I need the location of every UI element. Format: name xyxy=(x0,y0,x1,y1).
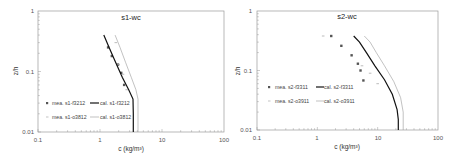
chart-title-right: s2-wc xyxy=(337,12,357,21)
x-axis-title-right: c (kg/m³) xyxy=(334,143,360,151)
legend-label: cal. s1-o3812 xyxy=(100,114,131,120)
y-axis-title-right: z/h xyxy=(234,66,241,75)
x-tick-100: 100 xyxy=(433,135,444,141)
x-tick-10: 10 xyxy=(375,135,382,141)
y-axis-title-left: z/h xyxy=(12,66,19,75)
y-tick-0.01: 0.01 xyxy=(22,129,34,135)
x-tick-10: 10 xyxy=(159,137,166,143)
legend-marker-square xyxy=(268,86,270,88)
legend-label: mea. s1-f3212 xyxy=(52,100,85,106)
data-point xyxy=(357,63,359,65)
legend-label: mea. s1-o3812 xyxy=(52,114,87,120)
x-tick-1: 1 xyxy=(315,135,319,141)
x-tick-0.1: 0.1 xyxy=(34,137,43,143)
data-point xyxy=(350,54,352,56)
legend-label: mea. s2-f3311 xyxy=(275,84,308,90)
data-point xyxy=(362,79,364,81)
plot-area-right xyxy=(257,11,438,130)
y-tick-1: 1 xyxy=(31,8,35,14)
y-tick-0.1: 0.1 xyxy=(244,68,253,74)
data-point xyxy=(123,84,125,86)
figure: s1-wc 1 0.1 0.01 0.1 1 10 100 c (kg/m³) … xyxy=(0,0,455,159)
data-point xyxy=(330,35,332,37)
legend-label: cal. s2-f3311 xyxy=(324,84,353,90)
x-tick-100: 100 xyxy=(219,137,230,143)
x-tick-0.1: 0.1 xyxy=(253,135,262,141)
data-point xyxy=(359,69,361,71)
x-tick-1: 1 xyxy=(98,137,102,143)
chart-s1-wc: s1-wc 1 0.1 0.01 0.1 1 10 100 c (kg/m³) … xyxy=(12,8,230,153)
legend-marker-square xyxy=(46,102,48,104)
y-tick-0.1: 0.1 xyxy=(26,69,35,75)
x-axis-title-left: c (kg/m³) xyxy=(118,145,144,153)
legend-label: cal. s2-o3911 xyxy=(324,98,355,104)
legend-label: mea. s2-o3911 xyxy=(275,98,309,104)
legend-label: cal. s1-f3212 xyxy=(100,100,130,106)
y-tick-1: 1 xyxy=(249,8,253,14)
data-point xyxy=(340,45,342,47)
chart-s2-wc: s2-wc 1 0.1 0.01 0.1 1 10 100 c (kg/m³) … xyxy=(234,8,444,151)
figure-canvas: s1-wc 1 0.1 0.01 0.1 1 10 100 c (kg/m³) … xyxy=(0,0,455,159)
y-tick-0.01: 0.01 xyxy=(240,127,252,133)
chart-title-left: s1-wc xyxy=(121,13,141,22)
